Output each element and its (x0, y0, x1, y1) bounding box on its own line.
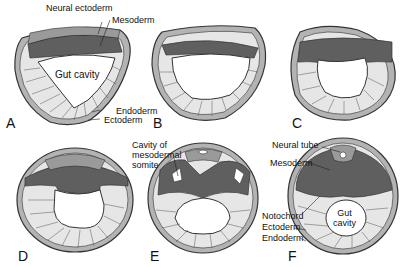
label-gut-cavity-f: Gut cavity (333, 208, 356, 228)
label-ectoderm-a: Ectoderm (104, 115, 143, 125)
panel-letter-f: F (288, 249, 297, 263)
panel-letter-a: A (6, 116, 15, 130)
label-cavity-mesodermal-somite: Cavity of mesodermal somite (132, 140, 182, 170)
label-notochord: Notochord (262, 211, 304, 221)
panel-letter-c: C (292, 116, 302, 130)
label-mesoderm-a: Mesoderm (112, 15, 155, 25)
panel-c-section (291, 26, 395, 120)
label-mesoderm-f: Mesoderm (270, 158, 313, 168)
panel-letter-e: E (150, 249, 159, 263)
label-ectoderm-f: Ectoderm (262, 222, 301, 232)
label-neural-tube: Neural tube (272, 140, 319, 150)
panel-f-section (288, 138, 398, 254)
label-gut-cavity-a: Gut cavity (55, 70, 99, 80)
label-endoderm-f: Endoderm (262, 233, 304, 243)
panel-letter-d: D (18, 249, 28, 263)
label-neural-ectoderm: Neural ectoderm (46, 3, 113, 13)
panel-letter-b: B (153, 116, 162, 130)
panel-d-section (17, 148, 133, 252)
panel-b-section (152, 26, 266, 121)
